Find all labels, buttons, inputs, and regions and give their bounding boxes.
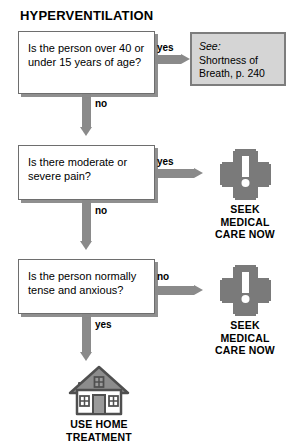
arrow-head <box>181 54 190 64</box>
edge-label-q3-yes: yes <box>95 319 112 330</box>
decision-text-tense-anxious: Is the person normally tense and anxious… <box>28 269 148 297</box>
arrow-shaft <box>82 314 91 352</box>
decision-text-pain: Is there moderate or severe pain? <box>28 155 148 183</box>
hyperventilation-flowchart: HYPERVENTILATION Is the person over 40 o… <box>0 0 297 444</box>
arrow-head <box>80 241 92 250</box>
reference-target: Shortness of Breath, p. 240 <box>199 54 265 80</box>
arrow-shaft <box>155 169 194 178</box>
arrow-q1-no <box>80 94 93 136</box>
outcome-label-seek-medical-care-1: SEEK MEDICAL CARE NOW <box>203 203 287 241</box>
house-icon <box>68 364 130 416</box>
decision-text-age: Is the person over 40 or under 15 years … <box>28 41 148 69</box>
arrow-q3-no <box>155 285 203 296</box>
arrow-q1-yes <box>155 54 190 65</box>
arrow-shaft <box>82 200 91 241</box>
arrow-q2-yes <box>155 168 203 179</box>
decision-box-tense-anxious: Is the person normally tense and anxious… <box>18 259 155 314</box>
edge-label-q1-no: no <box>95 98 107 109</box>
decision-box-pain: Is there moderate or severe pain? <box>18 145 155 200</box>
edge-label-q1-yes: yes <box>157 42 174 53</box>
medical-cross-exclamation-icon <box>218 263 273 316</box>
arrow-shaft <box>82 94 91 127</box>
page-title: HYPERVENTILATION <box>20 8 153 23</box>
arrow-q2-no <box>80 200 93 250</box>
medical-cross-exclamation-icon <box>218 147 273 200</box>
outcome-label-use-home-treatment: USE HOME TREATMENT <box>44 418 154 443</box>
outcome-use-home-treatment: USE HOME TREATMENT <box>44 364 154 443</box>
arrow-head <box>80 127 92 136</box>
arrow-head <box>194 168 203 178</box>
reference-box-shortness-of-breath[interactable]: See: Shortness of Breath, p. 240 <box>190 32 286 86</box>
edge-label-q3-no: no <box>157 271 169 282</box>
edge-label-q2-yes: yes <box>157 156 174 167</box>
edge-label-q2-no: no <box>95 205 107 216</box>
decision-box-age: Is the person over 40 or under 15 years … <box>18 31 155 94</box>
outcome-seek-medical-care-1: SEEK MEDICAL CARE NOW <box>203 147 287 241</box>
reference-see-label: See: <box>199 40 221 52</box>
reference-text: See: Shortness of Breath, p. 240 <box>199 40 280 81</box>
arrow-shaft <box>155 55 181 64</box>
outcome-seek-medical-care-2: SEEK MEDICAL CARE NOW <box>203 263 287 357</box>
arrow-head <box>194 285 203 295</box>
arrow-head <box>80 352 92 361</box>
arrow-shaft <box>155 286 194 295</box>
arrow-q3-yes <box>80 314 93 361</box>
outcome-label-seek-medical-care-2: SEEK MEDICAL CARE NOW <box>203 319 287 357</box>
